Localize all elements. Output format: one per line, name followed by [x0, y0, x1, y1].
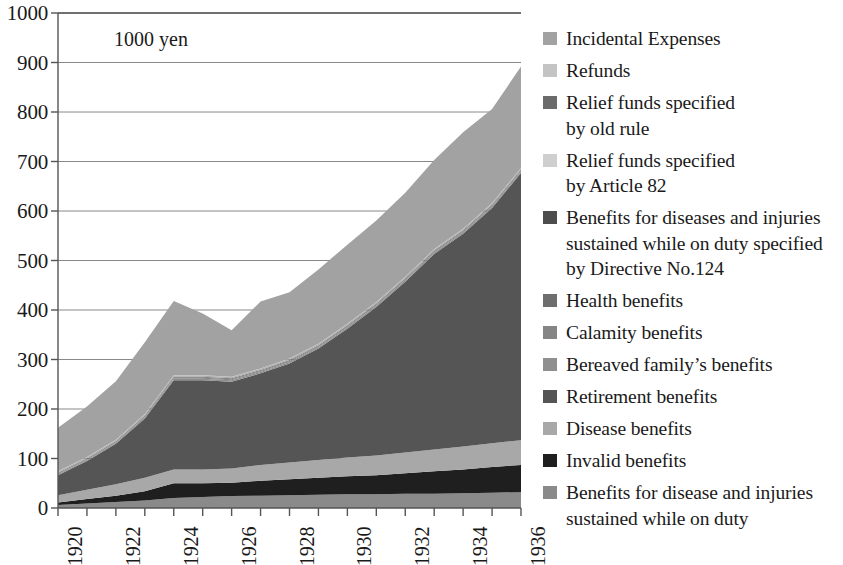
legend-item[interactable]: Retirement benefits: [543, 384, 843, 410]
legend-label: Health benefits: [566, 288, 683, 314]
x-axis-tick-label: 1930: [354, 527, 374, 565]
legend-item[interactable]: Calamity benefits: [543, 320, 843, 346]
legend-item[interactable]: Benefits for diseases and injuries susta…: [543, 205, 843, 282]
stacked-area-chart-figure: 1000 yen 0100200300400500600700800900100…: [0, 0, 843, 565]
legend-item[interactable]: Benefits for disease and injuries sustai…: [543, 480, 843, 531]
y-axis-tick-label: 600: [2, 201, 48, 222]
y-axis-tick-label: 300: [2, 350, 48, 371]
legend-item[interactable]: Health benefits: [543, 288, 843, 314]
y-axis-tick-label: 500: [2, 251, 48, 272]
legend-item[interactable]: Relief funds specified by old rule: [543, 90, 843, 141]
legend-swatch-icon: [543, 96, 557, 109]
legend-label: Incidental Expenses: [566, 26, 721, 52]
legend-label: Bereaved family’s benefits: [566, 352, 772, 378]
legend-label: Retirement benefits: [566, 384, 717, 410]
legend-swatch-icon: [543, 326, 557, 339]
x-axis-tick-label: 1928: [297, 527, 317, 565]
legend-swatch-icon: [543, 294, 557, 307]
y-axis-tick-label: 200: [2, 399, 48, 420]
x-axis-tick-label: 1922: [123, 527, 143, 565]
legend-label: Calamity benefits: [566, 320, 702, 346]
x-axis-tick-label: 1932: [412, 527, 432, 565]
y-axis-tick-label: 400: [2, 300, 48, 321]
chart-svg: [0, 0, 535, 565]
x-axis-tick-label: 1926: [239, 527, 259, 565]
y-axis-tick-label: 800: [2, 102, 48, 123]
legend-swatch-icon: [543, 358, 557, 371]
legend-item[interactable]: Bereaved family’s benefits: [543, 352, 843, 378]
legend-item[interactable]: Disease benefits: [543, 416, 843, 442]
legend-swatch-icon: [543, 422, 557, 435]
legend-item[interactable]: Invalid benefits: [543, 448, 843, 474]
x-axis-tick-label: 1934: [470, 527, 490, 565]
legend-swatch-icon: [543, 211, 557, 224]
unit-annotation: 1000 yen: [114, 29, 188, 49]
legend-swatch-icon: [543, 454, 557, 467]
legend-item[interactable]: Refunds: [543, 58, 843, 84]
legend-label: Benefits for disease and injuries sustai…: [566, 480, 813, 531]
y-axis-tick-label: 100: [2, 449, 48, 470]
legend-label: Refunds: [566, 58, 630, 84]
y-axis-tick-label: 700: [2, 152, 48, 173]
legend-item[interactable]: Incidental Expenses: [543, 26, 843, 52]
legend-swatch-icon: [543, 390, 557, 403]
legend-label: Invalid benefits: [566, 448, 686, 474]
legend-swatch-icon: [543, 486, 557, 499]
legend-item[interactable]: Relief funds specified by Article 82: [543, 148, 843, 199]
y-axis-tick-label: 900: [2, 53, 48, 74]
legend-label: Benefits for diseases and injuries susta…: [566, 205, 823, 282]
x-axis-tick-label: 1920: [65, 527, 85, 565]
legend-label: Disease benefits: [566, 416, 692, 442]
legend-label: Relief funds specified by old rule: [566, 90, 735, 141]
legend-label: Relief funds specified by Article 82: [566, 148, 735, 199]
x-axis-tick-label: 1924: [181, 527, 201, 565]
legend-swatch-icon: [543, 64, 557, 77]
y-axis-tick-label: 0: [2, 498, 48, 519]
legend-swatch-icon: [543, 32, 557, 45]
chart-plot-area: 1000 yen 0100200300400500600700800900100…: [0, 0, 535, 565]
chart-legend: Incidental ExpensesRefundsRelief funds s…: [543, 26, 843, 538]
legend-swatch-icon: [543, 154, 557, 167]
y-axis-tick-label: 1000: [2, 3, 48, 24]
